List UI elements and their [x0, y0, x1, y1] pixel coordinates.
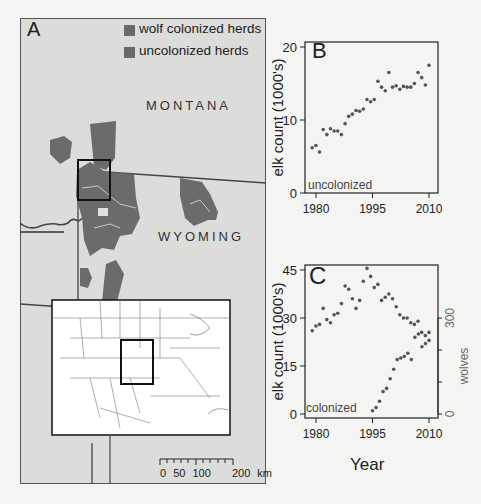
data-point	[387, 292, 391, 296]
data-point	[329, 321, 333, 325]
data-point	[413, 335, 417, 339]
panel-c-letter: C	[309, 262, 326, 290]
data-point	[409, 321, 413, 325]
data-point	[387, 71, 391, 75]
data-point	[347, 115, 351, 119]
data-point	[394, 84, 398, 88]
data-point	[310, 329, 314, 333]
data-point	[336, 311, 340, 315]
data-point	[424, 334, 428, 338]
data-point	[372, 286, 376, 290]
svg-text:1995: 1995	[359, 202, 386, 216]
panel-b-annotation: uncolonized	[308, 178, 372, 192]
data-point	[402, 316, 406, 320]
data-point	[420, 345, 424, 349]
svg-text:2010: 2010	[416, 427, 443, 441]
data-point	[427, 63, 431, 67]
data-point	[343, 122, 347, 126]
data-point	[336, 129, 340, 133]
data-point	[392, 367, 396, 371]
data-point	[405, 316, 409, 320]
svg-text:1980: 1980	[303, 202, 330, 216]
data-point	[369, 100, 373, 104]
data-point	[358, 299, 362, 303]
data-point	[340, 302, 344, 306]
data-point	[376, 283, 380, 287]
data-point	[321, 307, 325, 311]
data-point	[405, 85, 409, 89]
data-point	[424, 83, 428, 87]
data-point	[383, 295, 387, 299]
data-point	[310, 146, 314, 150]
data-point	[321, 128, 325, 132]
data-point	[372, 98, 376, 102]
data-point	[362, 107, 366, 111]
data-point	[371, 409, 375, 413]
data-point	[409, 85, 413, 89]
data-point	[383, 89, 387, 93]
data-point	[410, 358, 414, 362]
data-point	[325, 318, 329, 322]
svg-text:0: 0	[290, 186, 297, 201]
data-point	[351, 297, 355, 301]
data-point	[417, 332, 421, 336]
data-point	[416, 319, 420, 323]
svg-text:1980: 1980	[303, 427, 330, 441]
svg-text:elk count (1000's): elk count (1000's)	[269, 59, 286, 177]
svg-text:0: 0	[443, 410, 457, 417]
data-point	[314, 144, 318, 148]
data-point	[340, 133, 344, 137]
data-point	[420, 331, 424, 335]
data-point	[325, 133, 329, 137]
data-point	[385, 387, 389, 391]
data-point	[402, 355, 406, 359]
data-point	[347, 287, 351, 291]
data-point	[427, 339, 431, 343]
data-point	[402, 85, 406, 89]
panel-b-letter: B	[312, 38, 327, 64]
data-point	[376, 80, 380, 84]
svg-text:1995: 1995	[359, 427, 386, 441]
data-point	[358, 109, 362, 113]
data-point	[365, 267, 369, 271]
data-point	[391, 85, 395, 89]
data-point	[369, 275, 373, 279]
data-point	[354, 307, 358, 311]
data-point	[374, 406, 378, 410]
data-point	[427, 331, 431, 335]
data-point	[391, 297, 395, 301]
svg-text:300: 300	[443, 308, 457, 328]
svg-text:0: 0	[290, 407, 297, 422]
data-point	[399, 356, 403, 360]
chart-b: 01020198019952010elk count (1000's)01530…	[0, 0, 481, 504]
data-point	[424, 342, 428, 346]
data-point	[420, 76, 424, 80]
svg-text:45: 45	[283, 263, 297, 278]
data-point	[365, 98, 369, 102]
svg-text:wolves: wolves	[457, 348, 471, 386]
data-point	[314, 324, 318, 328]
data-point	[406, 351, 410, 355]
panel-c-annotation: colonized	[306, 401, 357, 415]
data-point	[343, 284, 347, 288]
data-point	[381, 390, 385, 394]
data-point	[380, 85, 384, 89]
data-point	[394, 305, 398, 309]
data-point	[413, 82, 417, 86]
data-point	[398, 313, 402, 317]
data-point	[351, 112, 355, 116]
x-axis-label: Year	[350, 455, 384, 475]
data-point	[332, 313, 336, 317]
svg-text:elk count (1000's): elk count (1000's)	[269, 283, 286, 401]
data-point	[362, 279, 366, 283]
data-point	[388, 377, 392, 381]
data-point	[416, 71, 420, 75]
data-point	[395, 358, 399, 362]
svg-text:2010: 2010	[416, 202, 443, 216]
data-point	[318, 323, 322, 327]
data-point	[378, 399, 382, 403]
data-point	[413, 323, 417, 327]
svg-text:20: 20	[283, 40, 297, 55]
data-point	[398, 88, 402, 92]
data-point	[318, 150, 322, 154]
